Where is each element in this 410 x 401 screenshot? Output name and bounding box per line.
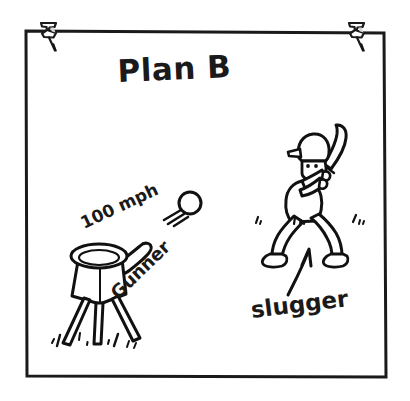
speed-label: 100 mph bbox=[77, 179, 161, 232]
page-title-text: Plan B bbox=[117, 48, 232, 89]
tripod-leg-left bbox=[63, 298, 90, 345]
baseball-circle bbox=[179, 192, 201, 214]
batter-label: slugger bbox=[249, 285, 350, 323]
baseball bbox=[164, 192, 201, 226]
eye-left bbox=[306, 164, 310, 168]
helmet bbox=[298, 134, 329, 161]
tripod-leg-right bbox=[112, 296, 140, 341]
leg-front bbox=[272, 216, 303, 257]
shoe-front bbox=[262, 254, 287, 267]
leg-back bbox=[311, 214, 342, 257]
shoe-back bbox=[323, 254, 348, 267]
hand-bottom bbox=[319, 179, 327, 188]
eye-right bbox=[314, 164, 318, 168]
pushpin-right bbox=[349, 23, 364, 51]
tripod-leg-center bbox=[94, 303, 103, 344]
sketch-poster-canvas: Plan B bbox=[0, 0, 410, 401]
page-title: Plan B bbox=[117, 48, 232, 89]
helmet-brim bbox=[288, 149, 301, 157]
speed-label-text: 100 mph bbox=[77, 179, 161, 232]
pointer-arrow bbox=[288, 249, 311, 295]
pushpin-left bbox=[41, 23, 56, 51]
pointer-arrow-head bbox=[302, 249, 311, 266]
batter-figure bbox=[256, 125, 364, 267]
sketch-illustration: Plan B bbox=[0, 0, 410, 401]
batter-label-text: slugger bbox=[249, 285, 350, 323]
